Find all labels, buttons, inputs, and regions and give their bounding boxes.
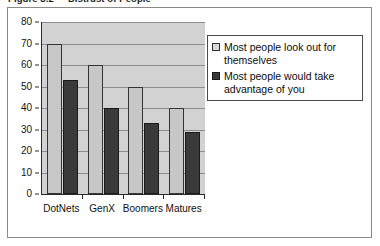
x-axis-tick-mark — [204, 195, 205, 199]
y-axis-tick-mark — [35, 172, 39, 173]
y-axis-tick-mark — [35, 151, 39, 152]
y-axis-tick-label: 30 — [21, 125, 32, 135]
chart-frame: 01020304050607080 DotNetsGenXBoomersMatu… — [7, 7, 372, 238]
x-axis-tick-mark — [82, 195, 83, 199]
y-axis-tick-label: 10 — [21, 168, 32, 178]
y-axis-tick-label: 80 — [21, 17, 32, 27]
bar-boomers-series-0 — [128, 87, 143, 195]
y-axis-tick-mark — [35, 86, 39, 87]
bar-boomers-series-1 — [144, 123, 159, 194]
x-axis-label-matures: Matures — [166, 203, 202, 214]
bar-matures-series-0 — [169, 108, 184, 194]
x-axis-label-genx: GenX — [89, 203, 115, 214]
bar-genx-series-1 — [104, 108, 119, 194]
y-axis-tick-mark — [35, 108, 39, 109]
bar-genx-series-0 — [88, 65, 103, 194]
x-axis-tick-mark — [123, 195, 124, 199]
figure-caption: Figure 8.2Distrust of People — [8, 0, 151, 4]
x-axis-tick-mark — [163, 195, 164, 199]
figure-number: Figure 8.2 — [8, 0, 54, 4]
legend-item-label: Most people would take advantage of you — [224, 70, 357, 95]
y-axis-tick-mark — [35, 43, 39, 44]
y-axis-tick-mark — [35, 129, 39, 130]
y-axis-tick-label: 50 — [21, 82, 32, 92]
y-axis-tick-mark — [35, 22, 39, 23]
x-axis: DotNetsGenXBoomersMatures — [41, 195, 205, 221]
x-axis-label-dotnets: DotNets — [43, 203, 79, 214]
y-axis-tick-label: 60 — [21, 60, 32, 70]
y-axis: 01020304050607080 — [8, 22, 39, 194]
bar-dotnets-series-0 — [47, 44, 62, 195]
y-axis-tick-label: 0 — [26, 189, 32, 199]
legend-item-label: Most people look out for themselves — [224, 41, 357, 66]
legend-swatch-icon — [212, 43, 220, 51]
plot-area — [41, 22, 205, 195]
chart-legend: Most people look out for themselvesMost … — [207, 35, 363, 101]
bar-dotnets-series-1 — [63, 80, 78, 194]
bar-matures-series-1 — [185, 132, 200, 194]
y-axis-tick-mark — [35, 65, 39, 66]
legend-item-1: Most people would take advantage of you — [212, 70, 357, 95]
y-axis-tick-label: 70 — [21, 39, 32, 49]
y-axis-tick-mark — [35, 194, 39, 195]
legend-swatch-icon — [212, 72, 220, 80]
x-axis-label-boomers: Boomers — [123, 203, 163, 214]
legend-item-0: Most people look out for themselves — [212, 41, 357, 66]
y-axis-tick-label: 20 — [21, 146, 32, 156]
y-axis-tick-label: 40 — [21, 103, 32, 113]
figure-title: Distrust of People — [68, 0, 151, 4]
bar-series-container — [42, 22, 205, 194]
